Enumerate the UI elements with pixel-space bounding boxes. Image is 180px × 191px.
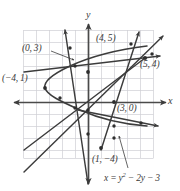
point-label-3-0: (3, 0) [117, 104, 136, 114]
steep-line-left [65, 30, 88, 184]
point-label-5-4: (5, 4) [140, 60, 159, 70]
point-dot [112, 100, 116, 104]
point-dot [73, 64, 76, 67]
point-dot [58, 96, 61, 99]
point-label-4-5: (4, 5) [96, 34, 115, 44]
point-dot [73, 106, 76, 109]
equation-label: x = y2 − 2y − 3 [104, 172, 160, 184]
y-axis-label: y [86, 10, 90, 20]
equation-lhs: x = y [104, 173, 123, 183]
leader-equation [119, 136, 128, 168]
x-axis-label: x [168, 96, 172, 106]
point-label-0-3: (0, 3) [22, 44, 41, 54]
point-dot [129, 42, 132, 45]
point-dot [150, 52, 153, 55]
point-dot [112, 124, 115, 127]
point-label-neg4-1: (−4, 1) [2, 74, 28, 84]
point-label-1-neg4: (1, −4) [92, 155, 118, 165]
equation-rhs: − 2y − 3 [126, 173, 160, 183]
coordinate-graph-figure [0, 0, 180, 191]
point-dot [68, 46, 71, 49]
point-dot [86, 132, 89, 135]
point-dot [86, 70, 90, 74]
point-dot [86, 108, 89, 111]
point-dot [43, 86, 47, 90]
point-dot [112, 136, 115, 139]
point-dot [139, 121, 142, 124]
point-dot [99, 146, 103, 150]
